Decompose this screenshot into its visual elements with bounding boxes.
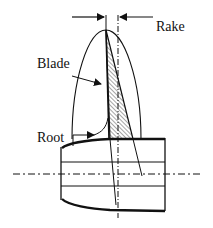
rake-dimension (72, 15, 153, 30)
root-fillet (94, 118, 108, 135)
propeller-diagram: Rake Blade Root (0, 0, 213, 228)
blade-label: Blade (37, 57, 70, 71)
blade-section-hatched (106, 30, 133, 139)
blade-generator-line-2 (133, 139, 142, 176)
hub-bottom-edge (62, 199, 165, 211)
rake-label: Rake (156, 20, 185, 34)
blade-generator-line-1 (110, 139, 116, 205)
root-label: Root (37, 131, 64, 145)
hub-top-edge (62, 139, 165, 148)
blade-leader-arrow (72, 76, 101, 84)
diagram-svg (0, 0, 213, 228)
